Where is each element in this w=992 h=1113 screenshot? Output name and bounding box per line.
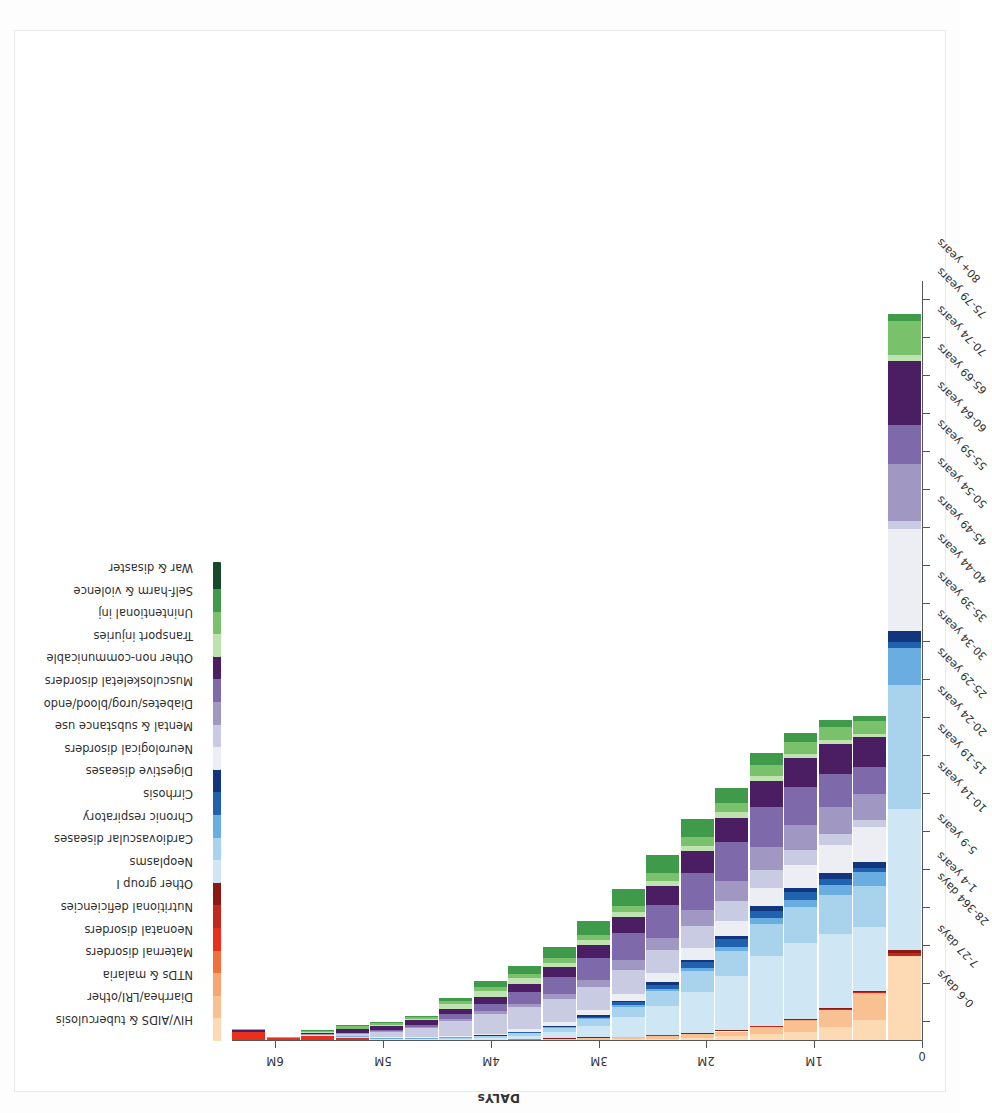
bar-segment[interactable] bbox=[577, 980, 610, 987]
bar-segment[interactable] bbox=[681, 910, 714, 926]
bar-segment[interactable] bbox=[715, 881, 748, 901]
bar-segment[interactable] bbox=[646, 982, 679, 984]
bar-segment[interactable] bbox=[405, 1016, 438, 1017]
bar-segment[interactable] bbox=[750, 911, 783, 919]
bar-segment[interactable] bbox=[715, 818, 748, 842]
bar-segment[interactable] bbox=[646, 991, 679, 1006]
bar-segment[interactable] bbox=[888, 529, 921, 631]
bar-segment[interactable] bbox=[853, 886, 886, 927]
bar-segment[interactable] bbox=[784, 1020, 817, 1021]
bar-segment[interactable] bbox=[439, 1036, 472, 1037]
bar-segment[interactable] bbox=[543, 1027, 576, 1028]
bar-segment[interactable] bbox=[336, 1029, 369, 1030]
bar-segment[interactable] bbox=[612, 889, 645, 906]
bar-segment[interactable] bbox=[508, 1029, 541, 1032]
bar-segment[interactable] bbox=[784, 900, 817, 908]
bar-segment[interactable] bbox=[612, 906, 645, 913]
bar-segment[interactable] bbox=[405, 1019, 438, 1020]
bar-segment[interactable] bbox=[370, 1032, 403, 1037]
bar-segment[interactable] bbox=[715, 803, 748, 813]
bar-segment[interactable] bbox=[819, 720, 852, 727]
bar-segment[interactable] bbox=[370, 1026, 403, 1030]
bar-segment[interactable] bbox=[612, 970, 645, 994]
bar-segment[interactable] bbox=[543, 1028, 576, 1032]
bar-segment[interactable] bbox=[439, 1004, 472, 1009]
bar-segment[interactable] bbox=[370, 1037, 403, 1038]
bar-segment[interactable] bbox=[577, 935, 610, 940]
bar-segment[interactable] bbox=[612, 1005, 645, 1007]
bar-segment[interactable] bbox=[543, 958, 576, 963]
bar-segment[interactable] bbox=[819, 885, 852, 895]
bar-segment[interactable] bbox=[750, 807, 783, 847]
bar-segment[interactable] bbox=[819, 807, 852, 834]
bar-segment[interactable] bbox=[336, 1029, 369, 1033]
bar-segment[interactable] bbox=[543, 999, 576, 1022]
bar-segment[interactable] bbox=[681, 948, 714, 960]
bar-segment[interactable] bbox=[819, 744, 852, 774]
bar-segment[interactable] bbox=[888, 648, 921, 685]
bar-segment[interactable] bbox=[715, 939, 748, 946]
bar-segment[interactable] bbox=[681, 837, 714, 846]
bar-segment[interactable] bbox=[301, 1031, 334, 1032]
bar-segment[interactable] bbox=[681, 873, 714, 910]
bar-segment[interactable] bbox=[439, 1019, 472, 1021]
bar-segment[interactable] bbox=[474, 1014, 507, 1034]
bar-segment[interactable] bbox=[819, 895, 852, 934]
bar-segment[interactable] bbox=[646, 1036, 679, 1039]
bar-segment[interactable] bbox=[370, 1030, 403, 1031]
bar-segment[interactable] bbox=[750, 870, 783, 888]
bar-segment[interactable] bbox=[267, 1037, 300, 1038]
bar-segment[interactable] bbox=[750, 765, 783, 776]
bar-segment[interactable] bbox=[405, 1020, 438, 1024]
bar-segment[interactable] bbox=[646, 985, 679, 989]
bar-segment[interactable] bbox=[646, 950, 679, 973]
bar-segment[interactable] bbox=[405, 1037, 438, 1038]
bar-segment[interactable] bbox=[784, 943, 817, 1019]
bar-segment[interactable] bbox=[681, 1034, 714, 1038]
bar-segment[interactable] bbox=[853, 828, 886, 862]
bar-segment[interactable] bbox=[508, 1036, 541, 1039]
bar-segment[interactable] bbox=[819, 1027, 852, 1041]
bar-segment[interactable] bbox=[784, 758, 817, 787]
bar-segment[interactable] bbox=[784, 907, 817, 943]
bar-segment[interactable] bbox=[715, 936, 748, 939]
bar-segment[interactable] bbox=[543, 1032, 576, 1038]
bar-segment[interactable] bbox=[819, 1008, 852, 1009]
bar-segment[interactable] bbox=[853, 737, 886, 767]
bar-segment[interactable] bbox=[715, 1032, 748, 1037]
bar-segment[interactable] bbox=[715, 812, 748, 817]
bar-segment[interactable] bbox=[405, 1028, 438, 1037]
bar-segment[interactable] bbox=[750, 1027, 783, 1034]
bar-segment[interactable] bbox=[474, 987, 507, 991]
bar-segment[interactable] bbox=[784, 825, 817, 851]
bar-segment[interactable] bbox=[577, 940, 610, 945]
bar-segment[interactable] bbox=[646, 989, 679, 991]
bar-segment[interactable] bbox=[853, 994, 886, 1020]
bar-segment[interactable] bbox=[370, 1023, 403, 1025]
bar-segment[interactable] bbox=[853, 994, 886, 995]
bar-segment[interactable] bbox=[681, 926, 714, 948]
bar-segment[interactable] bbox=[646, 873, 679, 881]
bar-segment[interactable] bbox=[888, 642, 921, 648]
bar-segment[interactable] bbox=[681, 968, 714, 971]
bar-segment[interactable] bbox=[301, 1033, 334, 1035]
bar-segment[interactable] bbox=[439, 1009, 472, 1014]
bar-segment[interactable] bbox=[646, 881, 679, 886]
bar-segment[interactable] bbox=[474, 1004, 507, 1012]
bar-segment[interactable] bbox=[405, 1027, 438, 1029]
bar-segment[interactable] bbox=[336, 1034, 369, 1035]
bar-segment[interactable] bbox=[577, 1018, 610, 1019]
bar-segment[interactable] bbox=[784, 1019, 817, 1020]
bar-segment[interactable] bbox=[646, 886, 679, 905]
bar-segment[interactable] bbox=[543, 967, 576, 977]
bar-segment[interactable] bbox=[232, 1029, 265, 1030]
bar-segment[interactable] bbox=[612, 960, 645, 970]
bar-segment[interactable] bbox=[681, 846, 714, 851]
bar-segment[interactable] bbox=[819, 1010, 852, 1011]
bar-segment[interactable] bbox=[853, 734, 886, 738]
bar-segment[interactable] bbox=[750, 781, 783, 808]
bar-segment[interactable] bbox=[336, 1036, 369, 1037]
bar-segment[interactable] bbox=[681, 851, 714, 873]
bar-segment[interactable] bbox=[853, 767, 886, 794]
bar-segment[interactable] bbox=[888, 355, 921, 360]
